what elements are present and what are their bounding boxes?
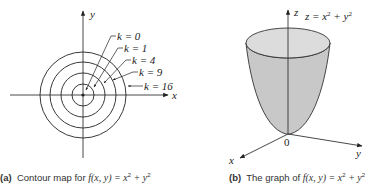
z-axis-label: z <box>293 6 299 18</box>
caption-a-func: f(x, y) = x <box>88 172 128 183</box>
caption-b-func: f(x, y) = x <box>303 172 343 183</box>
label-k1: k = 1 <box>124 42 147 54</box>
x-axis-3d-label: x <box>228 154 234 166</box>
y-axis-label: y <box>89 8 95 20</box>
label-k0: k = 0 <box>117 30 141 42</box>
origin-label: 0 <box>284 136 290 148</box>
caption-a-tag: (a) <box>0 172 12 183</box>
y-axis-3d <box>288 134 362 146</box>
surface-equation: z = x2 + y2 <box>304 10 352 22</box>
caption-b-text: The graph of <box>246 172 303 183</box>
leader-k9 <box>113 72 138 80</box>
x-axis-3d <box>240 134 288 158</box>
caption-a-text: Contour map for <box>17 172 88 183</box>
caption-b-tag: (b) <box>229 172 241 183</box>
caption-b-mid: + y <box>346 172 362 183</box>
caption-b: (b) The graph of f(x, y) = x2 + y2 <box>229 172 365 183</box>
y-axis-3d-label: y <box>355 147 361 159</box>
leader-k4 <box>104 60 131 83</box>
label-k16: k = 16 <box>144 80 173 92</box>
caption-a: (a) Contour map for f(x, y) = x2 + y2 <box>0 172 151 183</box>
caption-a-sup2: 2 <box>147 172 150 178</box>
label-k4: k = 4 <box>132 54 156 66</box>
contour-k0-point <box>81 93 84 96</box>
caption-a-mid: + y <box>131 172 147 183</box>
paraboloid-graph: z y x 0 z = x2 + y2 <box>228 6 362 166</box>
label-k9: k = 9 <box>139 66 163 78</box>
contour-map: x y k = 0 k = 1 k = 4 k = 9 k = 16 <box>10 8 177 158</box>
